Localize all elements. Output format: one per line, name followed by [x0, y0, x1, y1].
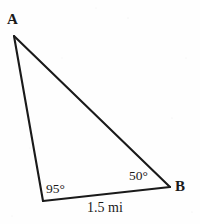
triangle-shape [0, 0, 200, 224]
triangle-figure: A B 95° 50° 1.5 mi [0, 0, 200, 224]
side-length-label: 1.5 mi [87, 201, 123, 215]
angle-label-95: 95° [46, 182, 65, 196]
angle-label-50: 50° [129, 169, 148, 183]
vertex-label-b: B [175, 179, 185, 194]
vertex-label-a: A [7, 12, 18, 27]
